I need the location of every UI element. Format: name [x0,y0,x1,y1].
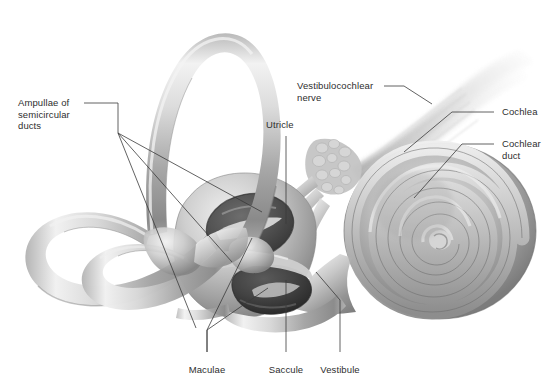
label-ampullae-of-semicircular-ducts: Ampullae of semicircular ducts [18,97,70,132]
label-saccule: Saccule [258,364,314,376]
label-utricle: Utricle [266,119,294,131]
label-cochlear-duct: Cochlear duct [502,138,541,161]
leader-nerve [384,86,432,104]
label-vestibulocochlear-nerve: Vestibulocochlear nerve [297,80,373,103]
label-maculae: Maculae [177,364,237,376]
label-cochlea: Cochlea [502,106,538,118]
inner-ear-illustration [0,0,551,388]
label-vestibule: Vestibule [311,364,369,376]
leader-ampullae-stem [84,103,118,133]
